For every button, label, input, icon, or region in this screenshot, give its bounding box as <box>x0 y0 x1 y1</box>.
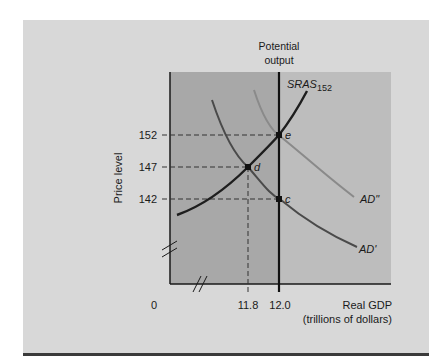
point-e <box>276 132 282 138</box>
point-d-label: d <box>254 161 261 173</box>
point-c-label: c <box>285 193 291 205</box>
x-tick-11-8: 11.8 <box>238 299 259 311</box>
region-below-potential <box>170 72 279 284</box>
potential-output-label-line1: Potential <box>259 40 300 52</box>
point-e-label: e <box>285 129 291 141</box>
ad-double-prime-label: AD" <box>359 193 380 205</box>
x-origin-label: 0 <box>151 299 157 311</box>
x-tick-12-0: 12.0 <box>269 299 290 311</box>
x-axis-label-line1: Real GDP <box>342 299 392 311</box>
point-c <box>276 196 282 202</box>
y-tick-152: 152 <box>139 129 157 141</box>
y-tick-142: 142 <box>139 193 157 205</box>
chart: e d c SRAS152 AD" AD' Potential output 1… <box>0 0 429 362</box>
y-tick-147: 147 <box>139 161 157 173</box>
potential-output-label-line2: output <box>264 54 293 66</box>
x-axis-label-line2: (trillions of dollars) <box>303 313 392 325</box>
y-axis-label: Price level <box>112 153 124 204</box>
ad-prime-label: AD' <box>358 243 377 255</box>
point-d <box>245 164 251 170</box>
